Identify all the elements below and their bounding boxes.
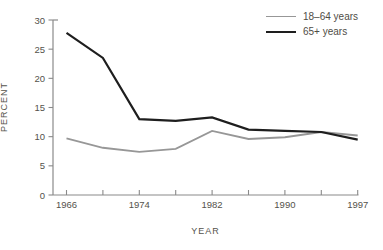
x-axis-title: YEAR — [53, 226, 358, 236]
legend-line-swatch-18-64 — [266, 16, 296, 17]
x-tick-label: 1990 — [274, 199, 295, 210]
y-axis-title: PERCENT — [0, 77, 9, 137]
x-tick-label: 1982 — [202, 199, 223, 210]
y-tick-label: 20 — [34, 73, 45, 84]
axes — [53, 20, 359, 195]
legend-line-swatch-65plus — [266, 31, 296, 33]
legend-label-65plus: 65+ years — [303, 26, 347, 37]
x-tick-label: 1974 — [129, 199, 150, 210]
series-lines — [67, 33, 358, 152]
x-tick-label: 1966 — [56, 199, 77, 210]
legend-label-18-64: 18–64 years — [303, 11, 358, 22]
y-tick-label: 10 — [34, 131, 45, 142]
legend-item-65plus: 65+ years — [266, 24, 358, 39]
y-tick-label: 0 — [40, 190, 45, 201]
legend-item-18-64: 18–64 years — [266, 9, 358, 24]
series-line-18-64 — [67, 131, 358, 152]
y-tick-label: 25 — [34, 44, 45, 55]
line-chart: 05101520253019661974198219901997 PERCENT… — [0, 0, 383, 250]
y-tick-label: 15 — [34, 102, 45, 113]
legend: 18–64 years 65+ years — [266, 9, 358, 39]
x-tick-label: 1997 — [347, 199, 368, 210]
axis-ticks — [49, 20, 358, 195]
y-tick-label: 30 — [34, 15, 45, 26]
series-line-65plus — [67, 33, 358, 140]
axis-tick-labels: 05101520253019661974198219901997 — [34, 15, 368, 211]
y-tick-label: 5 — [40, 160, 45, 171]
